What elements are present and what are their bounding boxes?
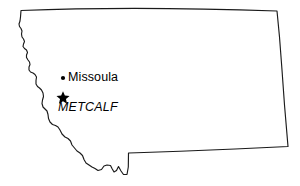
city-label-missoula: Missoula <box>68 71 118 84</box>
montana-map-figure: Missoula METCALF <box>0 0 300 186</box>
map-canvas <box>0 0 300 186</box>
site-label-metcalf: METCALF <box>58 101 118 114</box>
montana-state-outline <box>19 8 288 174</box>
city-dot-icon-missoula <box>61 76 65 80</box>
